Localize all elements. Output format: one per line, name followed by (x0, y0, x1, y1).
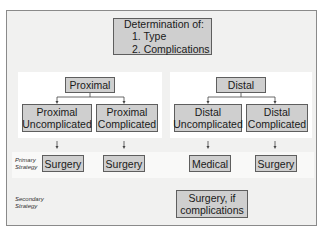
primary-proximal-complicated-text: Surgery (106, 158, 143, 170)
primary-proximal-uncomplicated-text: Surgery (45, 158, 82, 170)
primary-distal-uncomplicated-text: Medical (192, 158, 228, 170)
primary-distal-uncomplicated-box: Medical (189, 155, 231, 172)
proximal-uncomplicated-box: Proximal Uncomplicated (22, 104, 92, 132)
distal-complicated-box: Distal Complicated (246, 104, 308, 132)
primary-strategy-line1: Primary (15, 157, 37, 164)
distal-complicated-line2: Complicated (248, 118, 306, 130)
primary-proximal-complicated-box: Surgery (103, 155, 145, 172)
distal-uncomplicated-line1: Distal (195, 106, 221, 118)
distal-uncomplicated-line2: Uncomplicated (173, 118, 242, 130)
proximal-uncomplicated-line1: Proximal (37, 106, 78, 118)
primary-distal-complicated-text: Surgery (258, 158, 295, 170)
proximal-uncomplicated-line2: Uncomplicated (22, 118, 91, 130)
primary-strategy-label: Primary Strategy (15, 157, 37, 171)
distal-box: Distal (216, 77, 266, 93)
determination-heading: Determination of: (124, 18, 204, 31)
proximal-complicated-box: Proximal Complicated (96, 104, 158, 132)
determination-item-type: 1. Type (124, 30, 166, 43)
secondary-strategy-label: Secondary Strategy (15, 196, 44, 210)
secondary-distal-box: Surgery, if complications (176, 190, 248, 218)
distal-uncomplicated-box: Distal Uncomplicated (174, 104, 242, 132)
primary-distal-complicated-box: Surgery (255, 155, 297, 172)
determination-box: Determination of: 1. Type 2. Complicatio… (113, 18, 212, 55)
determination-item-complications: 2. Complications (124, 43, 210, 56)
secondary-strategy-line2: Strategy (15, 203, 44, 210)
proximal-box: Proximal (65, 77, 115, 93)
proximal-complicated-line1: Proximal (107, 106, 148, 118)
distal-label: Distal (228, 79, 254, 91)
primary-proximal-uncomplicated-box: Surgery (42, 155, 84, 172)
secondary-distal-line2: complications (180, 204, 244, 216)
secondary-distal-line1: Surgery, if (188, 192, 235, 204)
secondary-strategy-line1: Secondary (15, 196, 44, 203)
proximal-complicated-line2: Complicated (98, 118, 156, 130)
distal-complicated-line1: Distal (264, 106, 290, 118)
proximal-label: Proximal (70, 79, 111, 91)
primary-strategy-line2: Strategy (15, 164, 37, 171)
